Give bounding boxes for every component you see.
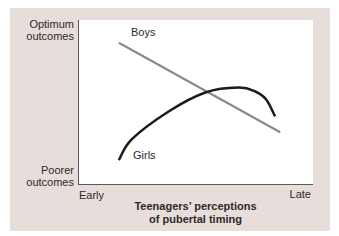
y-axis-label-top-line1: Optimum [10,19,74,31]
y-axis-label-top-line2: outcomes [10,31,74,43]
x-axis-title: Teenagers’ perceptions of pubertal timin… [78,200,313,225]
figure-panel: Optimum outcomes Poorer outcomes Boys Gi… [10,8,330,231]
plot-area: Boys Girls [78,20,313,185]
y-axis-label-bottom-line2: outcomes [10,177,74,189]
series-label-boys: Boys [131,26,155,38]
series-label-girls: Girls [133,149,156,161]
y-axis-label-bottom-line1: Poorer [10,165,74,177]
x-tick-late: Late [78,189,311,201]
x-axis-title-line1: Teenagers’ perceptions [78,200,313,213]
y-axis-label-bottom: Poorer outcomes [10,165,74,188]
chart-canvas [79,20,313,184]
y-axis-label-top: Optimum outcomes [10,19,74,42]
x-axis-title-line2: of pubertal timing [78,213,313,226]
series-line-boys [119,43,280,133]
